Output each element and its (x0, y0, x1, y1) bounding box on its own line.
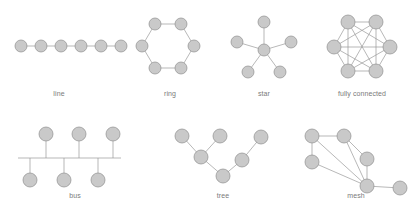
graph-node (360, 152, 374, 166)
graph-node (258, 44, 270, 56)
graph-node (369, 64, 383, 78)
edge-layer (142, 24, 194, 68)
topology-bus: bus (0, 118, 150, 210)
graph-node (369, 15, 383, 29)
graph-node (360, 179, 374, 193)
graph-node (175, 62, 187, 74)
graph-node (95, 40, 107, 52)
node-layer (231, 16, 297, 78)
graph-node (305, 155, 319, 169)
topology-label-tree: tree (168, 192, 278, 199)
graph-node (285, 36, 297, 48)
topology-star: star (222, 8, 306, 104)
topology-tree: tree (168, 118, 278, 210)
graph-node (39, 127, 53, 141)
graph-node (149, 18, 161, 30)
graph-node (55, 40, 67, 52)
graph-node (341, 64, 355, 78)
edge-layer (18, 141, 121, 173)
graph-node (188, 40, 200, 52)
topology-figure: lineringstarfully connectedbustreemesh (0, 0, 418, 212)
edge-n0-n4 (312, 136, 367, 186)
graph-node (254, 130, 268, 144)
graph-node (35, 40, 47, 52)
graph-node (337, 129, 351, 143)
edge-layer (334, 22, 390, 71)
graph-node (175, 18, 187, 30)
graph-node (75, 40, 87, 52)
graph-node (175, 129, 189, 143)
graph-node (305, 129, 319, 143)
graph-node (194, 150, 208, 164)
node-layer (136, 18, 200, 74)
graph-node (235, 153, 249, 167)
node-layer (175, 129, 268, 183)
graph-node (23, 173, 37, 187)
topology-label-star: star (222, 90, 306, 97)
node-layer (23, 127, 120, 187)
graph-node (231, 36, 243, 48)
topology-label-mesh: mesh (296, 192, 416, 199)
graph-node (258, 16, 270, 28)
topology-label-fully-connected: fully connected (310, 90, 414, 97)
graph-node (341, 15, 355, 29)
graph-node (15, 40, 27, 52)
graph-node (91, 173, 105, 187)
graph-node (327, 40, 341, 54)
graph-node (57, 173, 71, 187)
graph-node (136, 40, 148, 52)
topology-label-bus: bus (0, 192, 150, 199)
edge-n2-n4 (312, 162, 367, 186)
graph-node (149, 62, 161, 74)
edge-layer (312, 136, 400, 188)
graph-node (383, 40, 397, 54)
topology-label-line: line (0, 90, 118, 97)
topology-line: line (0, 8, 118, 104)
topology-ring: ring (128, 8, 212, 104)
graph-node (274, 66, 286, 78)
topology-fully-connected: fully connected (310, 8, 414, 104)
topology-mesh: mesh (296, 118, 416, 210)
topology-label-ring: ring (128, 90, 212, 97)
graph-node (106, 127, 120, 141)
graph-node (216, 169, 230, 183)
graph-node (115, 40, 127, 52)
graph-node (242, 66, 254, 78)
graph-node (213, 129, 227, 143)
graph-node (72, 127, 86, 141)
